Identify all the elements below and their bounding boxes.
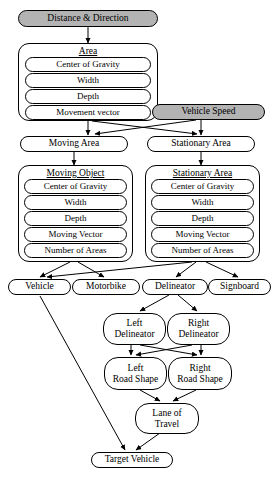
node-vehicle-label: Vehicle <box>25 282 54 292</box>
node-right-road-shape[interactable]: Right Road Shape <box>168 357 232 390</box>
node-left-road-shape-line1: Left <box>128 363 144 374</box>
moving-object-item-center-of-gravity[interactable]: Center of Gravity <box>24 179 128 194</box>
node-area-title: Area <box>79 45 97 57</box>
node-motorbike[interactable]: Motorbike <box>72 279 140 295</box>
node-lane-of-travel[interactable]: Lane of Travel <box>135 403 199 434</box>
node-moving-object-items: Center of Gravity Width Depth Moving Vec… <box>19 179 132 259</box>
node-delineator-label: Delineator <box>155 282 195 292</box>
node-lane-of-travel-line2: Travel <box>155 419 179 430</box>
node-right-delineator[interactable]: Right Delineator <box>167 313 230 345</box>
stationary-area-item-depth[interactable]: Depth <box>151 211 255 226</box>
stationary-area-item-width[interactable]: Width <box>151 195 255 210</box>
node-right-road-shape-line1: Right <box>189 363 210 374</box>
stationary-area-item-number-of-areas[interactable]: Number of Areas <box>151 243 255 258</box>
node-delineator[interactable]: Delineator <box>142 279 208 295</box>
node-distance-and-direction[interactable]: Distance & Direction <box>18 10 158 27</box>
node-motorbike-label: Motorbike <box>86 282 126 292</box>
node-vehicle[interactable]: Vehicle <box>8 279 71 295</box>
node-area-items: Center of Gravity Width Depth Movement v… <box>19 57 157 121</box>
node-stationary-area-detail-title: Stationary Area <box>173 167 232 179</box>
node-stationary-area-label: Stationary Area <box>171 139 230 149</box>
node-distance-and-direction-label: Distance & Direction <box>47 14 128 24</box>
area-item-depth[interactable]: Depth <box>25 89 152 104</box>
moving-object-item-moving-vector[interactable]: Moving Vector <box>24 227 128 242</box>
node-stationary-area-detail-items: Center of Gravity Width Depth Moving Vec… <box>146 179 259 259</box>
node-stationary-area-detail-group[interactable]: Stationary Area Center of Gravity Width … <box>145 165 260 262</box>
node-right-delineator-line2: Delineator <box>178 329 218 340</box>
stationary-area-item-moving-vector[interactable]: Moving Vector <box>151 227 255 242</box>
node-left-delineator[interactable]: Left Delineator <box>103 313 166 345</box>
area-item-center-of-gravity[interactable]: Center of Gravity <box>25 57 152 72</box>
node-moving-area-label: Moving Area <box>49 139 99 149</box>
node-vehicle-speed-label: Vehicle Speed <box>181 107 235 117</box>
node-moving-object-title: Moving Object <box>47 167 105 179</box>
node-stationary-area[interactable]: Stationary Area <box>147 136 255 152</box>
node-target-vehicle[interactable]: Target Vehicle <box>91 452 173 468</box>
node-moving-object-group[interactable]: Moving Object Center of Gravity Width De… <box>18 165 133 262</box>
node-area-group[interactable]: Area Center of Gravity Width Depth Movem… <box>18 43 158 121</box>
node-signboard[interactable]: Signboard <box>208 279 271 295</box>
node-lane-of-travel-line1: Lane of <box>152 408 181 419</box>
moving-object-item-width[interactable]: Width <box>24 195 128 210</box>
node-vehicle-speed[interactable]: Vehicle Speed <box>152 104 265 120</box>
node-moving-area[interactable]: Moving Area <box>20 136 128 152</box>
node-signboard-label: Signboard <box>220 282 259 292</box>
area-item-width[interactable]: Width <box>25 73 152 88</box>
moving-object-item-number-of-areas[interactable]: Number of Areas <box>24 243 128 258</box>
node-left-road-shape-line2: Road Shape <box>113 374 159 385</box>
node-target-vehicle-label: Target Vehicle <box>105 455 160 465</box>
area-item-movement-vector[interactable]: Movement vector <box>25 105 152 120</box>
node-right-delineator-line1: Right <box>188 318 209 329</box>
stationary-area-item-center-of-gravity[interactable]: Center of Gravity <box>151 179 255 194</box>
node-left-delineator-line2: Delineator <box>114 329 154 340</box>
flow-diagram: Distance & Direction Area Center of Grav… <box>0 0 277 480</box>
node-right-road-shape-line2: Road Shape <box>177 374 223 385</box>
moving-object-item-depth[interactable]: Depth <box>24 211 128 226</box>
node-left-road-shape[interactable]: Left Road Shape <box>104 357 167 390</box>
node-left-delineator-line1: Left <box>127 318 143 329</box>
